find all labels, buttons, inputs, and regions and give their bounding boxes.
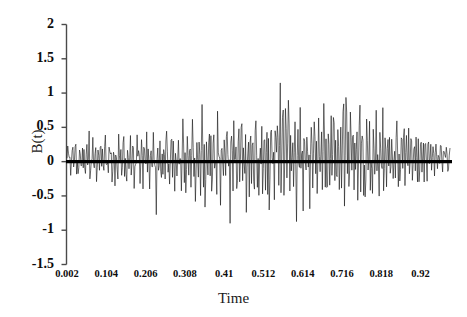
y-tick-label: 1.5 xyxy=(14,50,54,66)
x-tick-label: 0.92 xyxy=(391,268,451,279)
y-axis xyxy=(62,25,67,265)
y-tick-label: 2 xyxy=(14,16,54,32)
y-tick-label: -0.5 xyxy=(14,187,54,203)
x-axis-title: Time xyxy=(0,290,467,307)
y-axis-title: B(t) xyxy=(29,107,46,177)
data-series xyxy=(67,83,450,223)
y-tick-marks xyxy=(62,25,67,265)
y-tick-label: 1 xyxy=(14,84,54,100)
chart-container: 21.510.50-0.5-1-1.5 0.0020.1040.2060.308… xyxy=(0,0,467,317)
y-tick-label: -1 xyxy=(14,221,54,237)
